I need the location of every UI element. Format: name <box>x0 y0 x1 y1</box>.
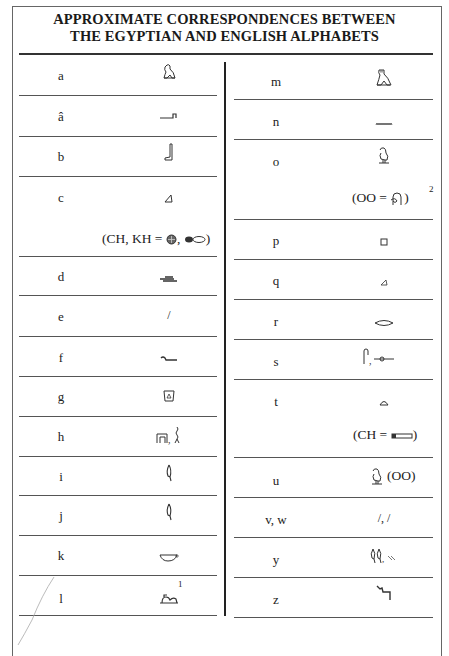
mouth-icon <box>334 315 434 330</box>
letter-label: p <box>256 233 296 248</box>
table-row: p <box>234 220 433 260</box>
quail-chick-icon <box>334 147 434 165</box>
letter-label: i <box>41 469 81 484</box>
letter-label: a <box>41 68 81 83</box>
table-row: u (OO) <box>234 458 433 498</box>
header-rule <box>19 53 433 55</box>
letter-label: f <box>41 350 81 365</box>
letter-label: n <box>256 114 296 129</box>
letter-label: t <box>256 394 296 409</box>
reed-stroke-icon: / <box>119 308 219 323</box>
owl-icon <box>334 69 434 87</box>
stool-icon <box>334 234 434 249</box>
table-row: n <box>234 100 433 140</box>
table-row: s , <box>234 340 433 380</box>
water-icon <box>334 116 434 131</box>
table-row: d <box>19 257 217 296</box>
reed-leaf-icon <box>119 464 219 482</box>
reed-stroke-icon: /, / <box>334 511 434 526</box>
svg-text:,: , <box>168 434 171 445</box>
letter-label: z <box>256 592 296 607</box>
letter-label: h <box>41 429 81 444</box>
table-row: c (CH, KH = , ) <box>19 177 217 257</box>
table-row: f <box>19 337 217 377</box>
letter-label: s <box>256 354 296 369</box>
glyph-suffix: (OO) <box>387 468 416 483</box>
letter-label: b <box>41 149 81 164</box>
hill-triangle-icon <box>119 190 219 205</box>
table-row: q <box>234 260 433 300</box>
table-row: â <box>19 96 217 137</box>
letter-label: m <box>256 74 296 89</box>
table-row: r <box>234 300 433 340</box>
quail-chick-icon: (OO) <box>370 468 416 486</box>
coil-icon <box>390 192 404 206</box>
hill-triangle-icon <box>334 274 434 289</box>
jar-stand-icon <box>119 388 219 403</box>
letter-label: d <box>41 269 81 284</box>
table-row: b <box>19 137 217 177</box>
table-row: m <box>234 60 433 100</box>
horned-viper-icon <box>119 351 219 366</box>
animal-belly-icon <box>184 235 206 244</box>
letter-label: g <box>41 389 81 404</box>
letter-label: y <box>256 552 296 567</box>
letter-label: o <box>256 154 296 169</box>
table-row: i <box>19 457 217 496</box>
letter-label: r <box>256 314 296 329</box>
table-row: k <box>19 536 217 576</box>
alternate-note: (CH, KH = , ) <box>102 231 210 247</box>
table-row: a <box>19 56 217 96</box>
placenta-icon <box>166 234 177 245</box>
lion-icon <box>119 591 219 606</box>
title-line-2: THE EGYPTIAN AND ENGLISH ALPHABETS <box>0 28 449 45</box>
basket-icon <box>119 549 219 564</box>
table-row: z <box>234 578 433 618</box>
door-bolt-z-icon <box>334 584 434 602</box>
arm-icon <box>119 108 219 123</box>
footnote-marker: 1 <box>178 579 183 589</box>
table-row: t (CH = ) <box>234 380 433 458</box>
table-row: h , <box>19 417 217 457</box>
house-plan-icon: , <box>119 425 219 445</box>
tethering-rope-icon <box>391 432 413 440</box>
double-reed-icon: , <box>334 548 434 564</box>
table-row: v, w /, / <box>234 498 433 538</box>
bread-loaf-icon <box>334 395 434 410</box>
page-title: APPROXIMATE CORRESPONDENCES BETWEEN THE … <box>0 11 449 45</box>
folded-cloth-icon: , <box>362 348 396 366</box>
letter-label: q <box>256 273 296 288</box>
table-row: e / <box>19 296 217 337</box>
pencil-mark <box>14 575 74 645</box>
letter-label: v, w <box>256 512 296 527</box>
letter-label: â <box>41 109 81 124</box>
footnote-marker: 2 <box>429 184 434 194</box>
table-row: g <box>19 377 217 417</box>
foot-icon <box>119 143 219 163</box>
svg-text:,: , <box>369 355 372 366</box>
letter-label: c <box>41 190 81 205</box>
alternate-note: (CH = ) <box>353 427 417 443</box>
column-divider <box>224 62 226 616</box>
reed-leaf-icon <box>119 503 219 521</box>
letter-label: j <box>41 508 81 523</box>
table-row: j <box>19 496 217 536</box>
letter-label: u <box>256 473 296 488</box>
title-line-1: APPROXIMATE CORRESPONDENCES BETWEEN <box>0 11 449 28</box>
table-row: y , <box>234 538 433 578</box>
vulture-icon <box>119 63 219 81</box>
alternate-note: (OO = ) <box>352 190 409 206</box>
hand-icon <box>119 271 219 286</box>
svg-text:,: , <box>382 554 384 564</box>
letter-label: k <box>41 548 81 563</box>
letter-label: e <box>41 309 81 324</box>
table-row: o (OO = ) 2 <box>234 140 433 220</box>
